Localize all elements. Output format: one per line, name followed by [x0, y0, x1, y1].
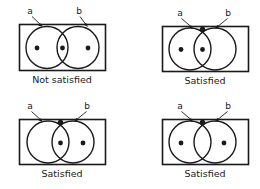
dot-boundary-top	[200, 120, 206, 126]
panel-caption: Not satisfied	[32, 74, 92, 85]
circle-a	[27, 121, 69, 163]
dot-intersection	[58, 141, 63, 146]
label-b: b	[225, 101, 231, 111]
dot-b-only	[81, 141, 86, 146]
label-b: b	[76, 6, 82, 16]
label-a: a	[27, 6, 33, 16]
panel-top-left: a b Not satisfied	[20, 6, 106, 85]
dot-a-only	[35, 46, 40, 51]
circle-b	[52, 121, 94, 163]
panel-caption: Satisfied	[41, 168, 82, 179]
dot-boundary-top	[200, 27, 206, 33]
dot-a-only	[179, 141, 184, 146]
label-a: a	[177, 101, 183, 111]
dot-intersection	[200, 47, 205, 52]
dot-boundary-top	[58, 120, 64, 126]
panel-top-right: a b Satisfied	[163, 8, 249, 86]
panel-bottom-right: a b Satisfied	[163, 101, 249, 179]
label-b: b	[84, 101, 90, 111]
dot-a-only	[179, 47, 184, 52]
panel-caption: Satisfied	[184, 75, 225, 86]
dot-intersection	[60, 46, 65, 51]
label-b: b	[225, 8, 231, 18]
dot-b-only	[222, 141, 227, 146]
dot-b-only	[86, 46, 91, 51]
label-a: a	[177, 8, 183, 18]
circle-a	[169, 121, 211, 163]
label-a: a	[27, 101, 33, 111]
panel-bottom-left: a b Satisfied	[20, 101, 106, 179]
panel-caption: Satisfied	[184, 168, 225, 179]
circle-b	[194, 121, 236, 163]
venn-diagram-figure: a b Not satisfied a b Satisfied a	[0, 0, 260, 189]
